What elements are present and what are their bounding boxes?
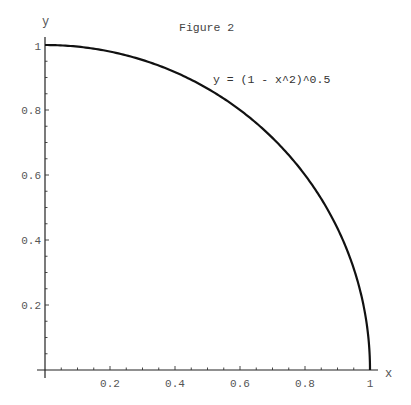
x-tick-label: 0.6 bbox=[230, 378, 250, 390]
plot-area: Figure 2 y x y = (1 - x^2)^0.5 0.2 0.4 0… bbox=[0, 0, 411, 405]
y-axis-label: y bbox=[42, 15, 49, 29]
quarter-circle-curve bbox=[45, 45, 370, 370]
axis-ticks bbox=[45, 45, 370, 370]
x-tick-label: 0.4 bbox=[165, 378, 185, 390]
curve-annotation: y = (1 - x^2)^0.5 bbox=[213, 73, 330, 86]
x-tick-label: 0.8 bbox=[295, 378, 315, 390]
y-tick-label: 0.4 bbox=[21, 235, 41, 247]
y-tick-label: 0.2 bbox=[21, 300, 41, 312]
y-tick-label: 0.8 bbox=[21, 105, 41, 117]
x-tick-label: 1 bbox=[367, 378, 374, 390]
y-tick-labels: 0.2 0.4 0.6 0.8 1 bbox=[21, 41, 41, 312]
chart-title: Figure 2 bbox=[179, 21, 234, 34]
x-axis-label: x bbox=[385, 367, 392, 381]
x-tick-label: 0.2 bbox=[100, 378, 120, 390]
y-tick-label: 0.6 bbox=[21, 170, 41, 182]
x-tick-labels: 0.2 0.4 0.6 0.8 1 bbox=[100, 378, 374, 390]
y-tick-label: 1 bbox=[34, 41, 41, 53]
